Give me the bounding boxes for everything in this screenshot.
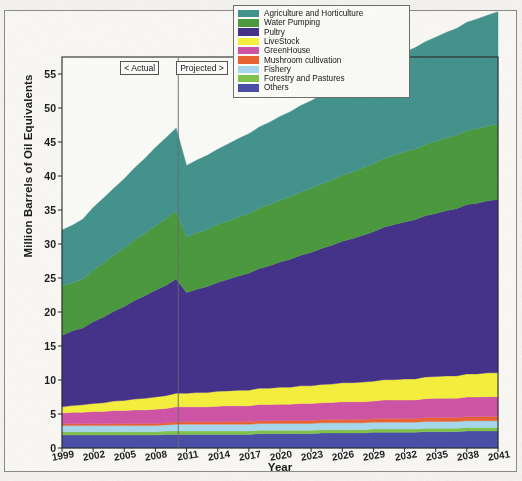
- y-tick-label: 25: [30, 272, 56, 284]
- legend-item-label: Pultry: [264, 28, 285, 37]
- y-tick-label: 5: [30, 408, 56, 420]
- annotation-actual: < Actual: [120, 61, 159, 75]
- legend-item: Pultry: [238, 28, 405, 37]
- y-tick-label: 20: [30, 306, 56, 318]
- y-tick-label: 55: [30, 68, 56, 80]
- legend-item-label: Others: [264, 83, 289, 92]
- legend-swatch-icon: [238, 10, 259, 17]
- y-tick-label: 10: [30, 374, 56, 386]
- y-tick-label: 40: [30, 170, 56, 182]
- legend-item: Fishery: [238, 65, 405, 74]
- y-tick-label: 35: [30, 204, 56, 216]
- scanned-page: Million Barrels of Oil Equivalents Year …: [0, 0, 522, 481]
- y-tick-label: 45: [30, 136, 56, 148]
- legend-swatch-icon: [238, 28, 259, 35]
- legend-swatch-icon: [238, 75, 259, 82]
- legend-swatch-icon: [238, 47, 259, 54]
- legend-swatch-icon: [238, 38, 259, 45]
- legend-item: Others: [238, 83, 405, 92]
- chart-legend: Agriculture and HorticultureWater Pumpin…: [233, 5, 410, 98]
- legend-item: Forestry and Pastures: [238, 74, 405, 83]
- y-tick-label: 50: [30, 102, 56, 114]
- annotation-projected: Projected >: [176, 61, 228, 75]
- legend-swatch-icon: [238, 56, 259, 63]
- legend-item: LiveStock: [238, 37, 405, 46]
- legend-item: GreenHouse: [238, 46, 405, 55]
- legend-item-label: Water Pumping: [264, 18, 320, 27]
- legend-item-label: Agriculture and Horticulture: [264, 9, 363, 18]
- legend-item: Agriculture and Horticulture: [238, 9, 405, 18]
- legend-item: Water Pumping: [238, 18, 405, 27]
- legend-swatch-icon: [238, 19, 259, 26]
- y-tick-label: 30: [30, 238, 56, 250]
- legend-item-label: Fishery: [264, 65, 291, 74]
- legend-item-label: Forestry and Pastures: [264, 74, 345, 83]
- legend-item-label: Mushroom cultivation: [264, 56, 341, 65]
- y-tick-label: 15: [30, 340, 56, 352]
- legend-swatch-icon: [238, 84, 259, 91]
- legend-item-label: LiveStock: [264, 37, 300, 46]
- legend-item: Mushroom cultivation: [238, 55, 405, 64]
- legend-item-label: GreenHouse: [264, 46, 310, 55]
- legend-swatch-icon: [238, 66, 259, 73]
